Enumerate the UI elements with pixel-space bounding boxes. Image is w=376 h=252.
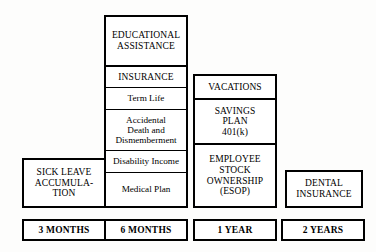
block-label-disability-income: Disability Income: [113, 156, 179, 166]
tenure-label-6-months: 6 MONTHS: [104, 219, 188, 241]
block-label-sick-leave: SICK LEAVE ACCUMULA- TION: [35, 167, 93, 200]
block-dental-insurance: DENTAL INSURANCE: [285, 170, 363, 208]
block-savings-plan: SAVINGS PLAN 401(k): [195, 98, 275, 143]
block-disability-income: Disability Income: [106, 150, 186, 172]
block-label-accidental-death-dismemberment: Accidental Death and Dismemberment: [115, 115, 176, 146]
tenure-text-6-months: 6 MONTHS: [121, 225, 172, 235]
block-label-term-life: Term Life: [128, 93, 165, 103]
block-label-medical-plan: Medical Plan: [122, 184, 171, 194]
tenure-label-3-months: 3 MONTHS: [22, 219, 106, 241]
block-label-educational-assistance: EDUCATIONAL ASSISTANCE: [112, 30, 180, 51]
block-medical-plan: Medical Plan: [106, 172, 186, 206]
block-label-dental-insurance: DENTAL INSURANCE: [296, 178, 351, 200]
tenure-text-1-year: 1 YEAR: [218, 225, 253, 235]
block-accidental-death-dismemberment: Accidental Death and Dismemberment: [106, 109, 186, 150]
block-sick-leave-accumulation: SICK LEAVE ACCUMULA- TION: [22, 158, 106, 208]
column-1-year-stack: VACATIONS SAVINGS PLAN 401(k) EMPLOYEE S…: [193, 74, 277, 208]
block-employee-stock-ownership: EMPLOYEE STOCK OWNERSHIP (ESOP): [195, 143, 275, 206]
benefits-eligibility-diagram: SICK LEAVE ACCUMULA- TION EDUCATIONAL AS…: [0, 0, 376, 252]
tenure-label-2-years: 2 YEARS: [281, 219, 365, 241]
block-term-life: Term Life: [106, 87, 186, 109]
block-label-savings-plan: SAVINGS PLAN 401(k): [215, 106, 256, 138]
column-6-months-stack: EDUCATIONAL ASSISTANCE INSURANCE Term Li…: [104, 15, 188, 208]
tenure-label-1-year: 1 YEAR: [193, 219, 277, 241]
tenure-text-2-years: 2 YEARS: [303, 225, 343, 235]
block-vacations: VACATIONS: [195, 76, 275, 98]
block-label-insurance: INSURANCE: [118, 72, 173, 83]
tenure-text-3-months: 3 MONTHS: [39, 225, 90, 235]
block-educational-assistance: EDUCATIONAL ASSISTANCE: [106, 17, 186, 65]
block-insurance: INSURANCE: [106, 65, 186, 87]
block-label-vacations: VACATIONS: [208, 82, 262, 93]
block-label-employee-stock-ownership: EMPLOYEE STOCK OWNERSHIP (ESOP): [207, 154, 263, 197]
